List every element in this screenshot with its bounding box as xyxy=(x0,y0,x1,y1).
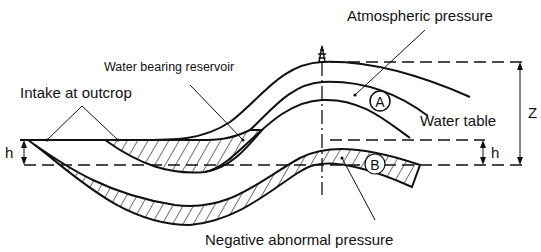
label-water-table: Water table xyxy=(420,112,496,129)
label-h-right: h xyxy=(491,144,499,161)
point-a-label: A xyxy=(375,94,385,110)
h-left-dimension xyxy=(21,140,27,165)
point-b-label: B xyxy=(370,157,379,173)
point-b-marker: B xyxy=(365,154,385,174)
leader-intake-1 xyxy=(47,106,82,140)
aquifer-top-curve xyxy=(250,82,428,130)
h-right-dimension xyxy=(480,140,486,165)
label-intake-at-outcrop: Intake at outcrop xyxy=(20,84,132,101)
label-atmospheric-pressure: Atmospheric pressure xyxy=(347,7,493,24)
pressure-diagram: A B Atmospheric pressure Water bearing r… xyxy=(0,0,541,252)
point-a-marker: A xyxy=(370,91,390,111)
leader-reservoir xyxy=(190,85,243,140)
label-negative-abnormal-pressure: Negative abnormal pressure xyxy=(205,231,393,248)
z-dimension xyxy=(517,62,523,165)
leader-atmospheric xyxy=(355,30,425,95)
derrick-icon xyxy=(318,46,326,62)
label-water-bearing-reservoir: Water bearing reservoir xyxy=(104,60,234,74)
label-h-left: h xyxy=(5,144,13,161)
leader-intake-2 xyxy=(82,106,118,140)
label-z: Z xyxy=(528,104,537,121)
